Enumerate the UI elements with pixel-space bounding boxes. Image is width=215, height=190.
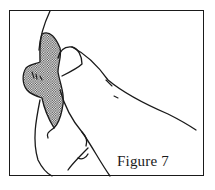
hand-illustration	[0, 0, 215, 190]
finger-line	[60, 90, 110, 176]
shaded-object	[23, 33, 63, 128]
hand-outline-top	[72, 47, 196, 130]
figure-caption: Figure 7	[117, 153, 169, 170]
